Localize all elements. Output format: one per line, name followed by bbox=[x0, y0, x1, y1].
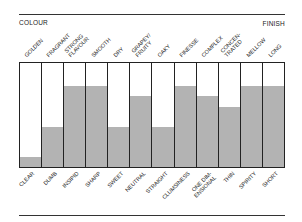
top-descriptor-label: FINESSE bbox=[179, 38, 200, 59]
bar-column bbox=[130, 63, 152, 167]
top-descriptor-label: GRAPEY/ FRUITY bbox=[131, 33, 157, 59]
bar-fill bbox=[108, 127, 129, 167]
bar-column bbox=[42, 63, 64, 167]
colour-label: COLOUR bbox=[19, 19, 48, 26]
bar-column bbox=[175, 63, 197, 167]
bar-column bbox=[241, 63, 263, 167]
bottom-descriptor-label: ONE DIM- ENSIONAL bbox=[189, 171, 217, 199]
bar-fill bbox=[42, 127, 63, 167]
bar-fill bbox=[20, 157, 41, 167]
finish-label: FINISH bbox=[262, 20, 285, 27]
bottom-descriptor-label: CLEAR bbox=[19, 171, 36, 188]
bar-fill bbox=[219, 107, 240, 167]
bottom-descriptor-label: SPIRITY bbox=[238, 171, 257, 190]
bottom-descriptor-label: SHARP bbox=[85, 171, 103, 189]
top-descriptor-label: OAKY bbox=[157, 44, 172, 59]
bar-chart bbox=[19, 62, 285, 168]
bottom-rule bbox=[19, 215, 285, 216]
bottom-descriptor-label: SWEET bbox=[107, 171, 125, 189]
top-descriptor-label: GOLDEN bbox=[24, 38, 45, 59]
bar-column bbox=[152, 63, 174, 167]
bottom-descriptor-label: THIN bbox=[222, 171, 235, 184]
top-descriptor-label: LONG bbox=[268, 44, 283, 59]
bar-fill bbox=[241, 86, 262, 167]
top-descriptor-label: MELLOW bbox=[246, 38, 267, 59]
bar-fill bbox=[130, 96, 151, 167]
bar-fill bbox=[175, 86, 196, 167]
bar-column bbox=[64, 63, 86, 167]
bar-fill bbox=[64, 86, 85, 167]
top-rule bbox=[19, 14, 285, 15]
bar-column bbox=[108, 63, 130, 167]
bar-fill bbox=[152, 127, 173, 167]
top-descriptor-label: DRY bbox=[113, 47, 125, 59]
bar-column bbox=[197, 63, 219, 167]
bar-column bbox=[219, 63, 241, 167]
top-descriptor-label: SMOOTH bbox=[90, 38, 111, 59]
bar-column bbox=[20, 63, 42, 167]
bottom-descriptor-label: INSIPID bbox=[62, 171, 80, 189]
top-descriptor-label: CONCEN- TRATED bbox=[219, 32, 246, 59]
bar-fill bbox=[197, 96, 218, 167]
bottom-descriptor-label: SHORT bbox=[262, 171, 280, 189]
bottom-descriptor-label: DUMB bbox=[43, 171, 59, 187]
bar-column bbox=[86, 63, 108, 167]
bar-fill bbox=[263, 86, 284, 167]
bar-column bbox=[263, 63, 284, 167]
bar-fill bbox=[86, 86, 107, 167]
